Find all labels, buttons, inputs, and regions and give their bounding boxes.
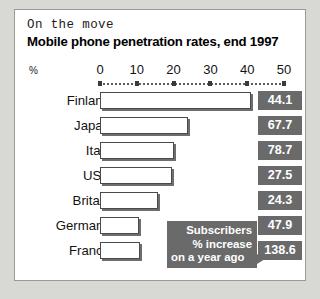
bar-germany — [100, 217, 139, 234]
chart-image: On the move Mobile phone penetration rat… — [0, 0, 320, 299]
callout-box: Subscribers % increase on a year ago — [167, 221, 257, 268]
x-axis-tick-0: 0 — [96, 62, 103, 77]
value-badge-britain: 24.3 — [258, 191, 302, 210]
x-axis-marker-30 — [208, 81, 212, 86]
callout-line-1: Subscribers — [171, 224, 252, 238]
x-axis-line — [15, 81, 307, 88]
bar-row: Japan67.7 — [15, 115, 307, 140]
value-badge-germany: 47.9 — [258, 216, 302, 235]
callout-arrow-icon — [257, 254, 265, 264]
x-axis-tick-40: 40 — [240, 62, 254, 77]
x-axis-marker-20 — [172, 81, 176, 86]
value-badge-usa: 27.5 — [258, 166, 302, 185]
x-axis-tick-labels: 01020304050 — [15, 62, 307, 80]
x-axis-marker-40 — [245, 81, 249, 86]
x-axis-tick-50: 50 — [277, 62, 291, 77]
x-axis-marker-50 — [282, 81, 286, 86]
bar-italy — [100, 142, 174, 159]
x-axis-tick-10: 10 — [130, 62, 144, 77]
bar-france — [100, 242, 140, 259]
x-axis-tick-20: 20 — [166, 62, 180, 77]
callout-line-3: on a year ago — [171, 251, 252, 265]
chart-panel: On the move Mobile phone penetration rat… — [14, 9, 306, 281]
bar-usa — [100, 167, 172, 184]
bar-rows: Finland44.1Japan67.7Italy78.7USA27.5Brit… — [15, 90, 307, 265]
value-badge-japan: 67.7 — [258, 116, 302, 135]
bar-row: Britain24.3 — [15, 190, 307, 215]
value-badge-italy: 78.7 — [258, 141, 302, 160]
axis-dotted-rule — [100, 83, 284, 87]
bar-japan — [100, 117, 188, 134]
chart-kicker: On the move — [27, 18, 114, 32]
chart-title: Mobile phone penetration rates, end 1997 — [27, 34, 278, 49]
bar-row: Italy78.7 — [15, 140, 307, 165]
x-axis-marker-0 — [98, 81, 102, 86]
x-axis-tick-30: 30 — [203, 62, 217, 77]
bar-britain — [100, 192, 158, 209]
bar-row: Germany47.9 — [15, 215, 307, 240]
bar-row: USA27.5 — [15, 165, 307, 190]
bar-row: Finland44.1 — [15, 90, 307, 115]
callout-line-2: % increase — [171, 238, 252, 252]
value-badge-finland: 44.1 — [258, 91, 302, 110]
x-axis-marker-10 — [135, 81, 139, 86]
bar-finland — [100, 92, 251, 109]
